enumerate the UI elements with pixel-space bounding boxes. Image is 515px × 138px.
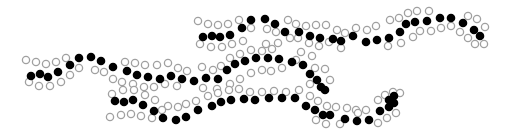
hollow-bead	[66, 71, 73, 78]
hollow-bead	[363, 26, 370, 33]
hollow-bead	[416, 27, 423, 34]
hollow-bead	[392, 109, 399, 116]
hollow-bead	[262, 40, 269, 47]
filled-bead	[167, 72, 176, 81]
filled-bead	[247, 16, 256, 25]
hollow-bead	[263, 25, 270, 32]
hollow-bead	[35, 82, 42, 89]
filled-bead	[150, 107, 159, 116]
hollow-bead	[151, 96, 158, 103]
filled-bead	[302, 102, 311, 111]
filled-bead	[264, 54, 273, 63]
hollow-bead	[239, 37, 246, 44]
filled-bead	[362, 38, 371, 47]
hollow-bead	[341, 29, 348, 36]
hollow-bead	[75, 64, 82, 71]
filled-bead	[36, 70, 45, 79]
hollow-bead	[207, 43, 214, 50]
hollow-bead	[332, 103, 339, 110]
filled-bead	[133, 71, 142, 80]
filled-bead	[353, 117, 362, 126]
hollow-bead	[386, 16, 393, 23]
filled-bead	[238, 24, 247, 33]
hollow-bead	[308, 52, 315, 59]
hollow-bead	[235, 85, 242, 92]
hollow-bead	[164, 59, 171, 66]
hollow-bead	[225, 86, 232, 93]
filled-bead	[208, 32, 217, 41]
hollow-bead	[46, 82, 53, 89]
hollow-bead	[209, 66, 216, 73]
polymer-chain-diagram	[0, 0, 515, 138]
hollow-bead	[352, 24, 359, 31]
filled-bead	[87, 53, 96, 62]
hollow-bead	[236, 75, 243, 82]
hollow-bead	[127, 110, 134, 117]
hollow-bead	[246, 88, 253, 95]
hollow-bead	[306, 80, 313, 87]
filled-bead	[365, 116, 374, 125]
filled-bead	[459, 19, 468, 28]
filled-bead	[156, 75, 165, 84]
hollow-bead	[337, 44, 344, 51]
filled-bead	[447, 14, 456, 23]
hollow-bead	[196, 40, 203, 47]
hollow-bead	[42, 60, 49, 67]
hollow-bead	[464, 12, 471, 19]
hollow-bead	[121, 58, 128, 65]
filled-bead	[281, 28, 290, 37]
hollow-bead	[404, 9, 411, 16]
filled-bead	[390, 92, 399, 101]
hollow-bead	[322, 120, 329, 127]
filled-bead	[214, 75, 223, 84]
hollow-bead	[131, 59, 138, 66]
hollow-bead	[199, 84, 206, 91]
hollow-bead	[224, 20, 231, 27]
hollow-bead	[395, 14, 402, 21]
hollow-bead	[413, 7, 420, 14]
hollow-bead	[464, 34, 471, 41]
filled-bead	[54, 68, 63, 77]
hollow-bead	[228, 40, 235, 47]
hollow-bead	[153, 61, 160, 68]
filled-bead	[182, 113, 191, 122]
filled-bead	[299, 61, 308, 70]
filled-bead	[436, 14, 445, 23]
hollow-bead	[312, 116, 319, 123]
hollow-bead	[32, 58, 39, 65]
filled-bead	[402, 20, 411, 29]
hollow-bead	[22, 56, 29, 63]
filled-bead	[373, 36, 382, 45]
hollow-bead	[409, 33, 416, 40]
filled-bead	[251, 96, 260, 105]
hollow-bead	[326, 76, 333, 83]
filled-bead	[295, 28, 304, 37]
hollow-bead	[258, 47, 265, 54]
hollow-bead	[480, 40, 487, 47]
filled-bead	[216, 33, 225, 42]
filled-bead	[66, 61, 75, 70]
filled-bead	[261, 15, 270, 24]
hollow-bead	[297, 48, 304, 55]
filled-bead	[252, 54, 261, 63]
hollow-bead	[292, 20, 299, 27]
hollow-beads	[22, 7, 488, 127]
hollow-bead	[141, 91, 148, 98]
filled-bead	[476, 32, 485, 41]
filled-bead	[199, 33, 208, 42]
hollow-bead	[323, 102, 330, 109]
hollow-bead	[374, 96, 381, 103]
hollow-bead	[91, 66, 98, 73]
hollow-bead	[473, 15, 480, 22]
hollow-bead	[374, 119, 381, 126]
filled-bead	[241, 57, 250, 66]
filled-bead	[178, 75, 187, 84]
hollow-bead	[270, 87, 277, 94]
hollow-bead	[214, 89, 221, 96]
hollow-bead	[247, 24, 254, 31]
hollow-bead	[362, 106, 369, 113]
hollow-bead	[333, 26, 340, 33]
filled-bead	[202, 74, 211, 83]
filled-bead	[337, 37, 346, 46]
hollow-bead	[305, 39, 312, 46]
